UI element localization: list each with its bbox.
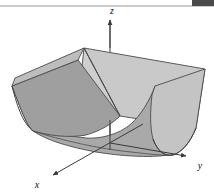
- surface-plot-svg: z y x: [0, 0, 214, 196]
- corner-block: [192, 0, 214, 6]
- parabolic-cylinder-surface: [12, 48, 205, 156]
- figure-container: z y x: [0, 0, 214, 196]
- z-axis-label: z: [109, 5, 114, 16]
- x-axis-label: x: [34, 179, 40, 190]
- y-axis-label: y: [197, 160, 203, 171]
